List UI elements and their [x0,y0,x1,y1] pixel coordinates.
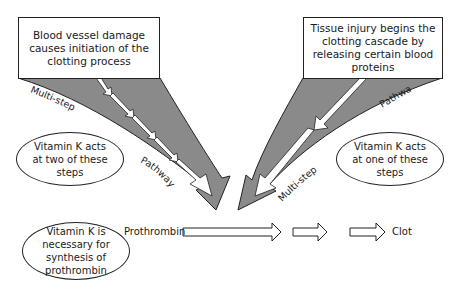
box-blood-vessel-damage: Blood vessel damage causes initiation of… [18,17,160,79]
ellipse-left-steps-text: Vitamin K acts at two of these steps [31,140,109,179]
label-clot: Clot [392,226,412,237]
label-left-multistep: Multi-step [29,84,77,113]
box-tissue-injury-text: Tissue injury begins the clotting cascad… [308,22,438,74]
label-right-multistep: Multi-step [276,164,319,204]
ellipse-right-steps: Vitamin K acts at one of these steps [336,132,444,186]
ellipse-synthesis-text: Vitamin K is necessary for synthesis of … [29,225,123,277]
ellipse-left-steps: Vitamin K acts at two of these steps [16,132,124,186]
ellipse-right-steps-text: Vitamin K acts at one of these steps [351,140,429,179]
clotting-cascade-diagram: Multi-step Pathway Pathway Multi-step Bl… [0,0,458,294]
box-blood-vessel-damage-text: Blood vessel damage causes initiation of… [23,29,155,68]
label-prothrombin: Prothrombin [124,226,185,237]
box-tissue-injury: Tissue injury begins the clotting cascad… [303,17,443,79]
label-left-pathway: Pathway [139,154,178,189]
ellipse-synthesis: Vitamin K is necessary for synthesis of … [22,222,130,280]
